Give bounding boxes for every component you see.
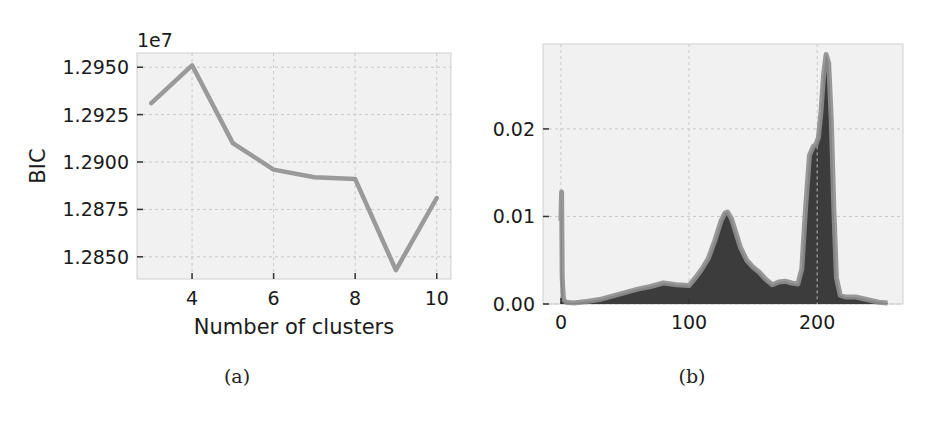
- y-tick-label: 0.02: [493, 118, 535, 140]
- caption-a: (a): [224, 365, 250, 387]
- x-tick-label: 4: [186, 287, 198, 309]
- y-tick-label: 1.2925: [63, 104, 129, 126]
- y-tick-label: 1.2900: [63, 151, 129, 173]
- caption-b: (b): [679, 365, 706, 387]
- x-tick-label: 200: [799, 311, 835, 333]
- figure: 468101.28501.28751.29001.29251.2950 1e7 …: [0, 0, 928, 422]
- y-offset-label: 1e7: [137, 29, 173, 51]
- x-tick-label: 6: [268, 287, 280, 309]
- x-tick-label: 0: [555, 311, 567, 333]
- y-tick-label: 1.2875: [63, 198, 129, 220]
- y-tick-label: 1.2950: [63, 56, 129, 78]
- y-axis-label: BIC: [26, 148, 50, 183]
- bic-line-chart: 468101.28501.28751.29001.29251.2950 1e7 …: [26, 29, 451, 339]
- y-tick-label: 1.2850: [63, 246, 129, 268]
- density-area-chart: 01002000.000.010.02: [493, 44, 903, 333]
- y-tick-label: 0.01: [493, 205, 535, 227]
- x-tick-label: 100: [671, 311, 707, 333]
- y-tick-label: 0.00: [493, 293, 535, 315]
- x-axis-label: Number of clusters: [194, 315, 394, 339]
- x-tick-label: 8: [349, 287, 361, 309]
- x-tick-label: 10: [425, 287, 449, 309]
- plot-area: [137, 53, 451, 279]
